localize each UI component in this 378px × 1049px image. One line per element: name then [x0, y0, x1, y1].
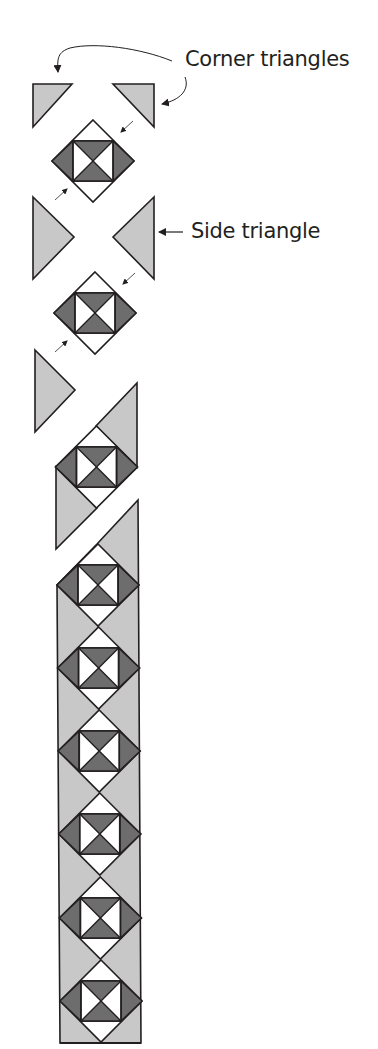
corner-label-arrow-right [162, 77, 186, 104]
step-1 [33, 84, 154, 202]
corner-triangles-label: Corner triangles [185, 47, 349, 71]
arrow-icon [121, 121, 133, 132]
quilt-diagram [0, 0, 378, 1049]
corner-label-arrow-left [58, 46, 172, 72]
arrow-icon [55, 341, 67, 352]
side-triangle-left-3 [35, 350, 75, 432]
side-triangle-left [33, 197, 74, 279]
completed-row [57, 500, 142, 1043]
corner-triangle-left [33, 84, 72, 127]
arrow-icon [55, 189, 67, 200]
corner-triangle-right [113, 84, 154, 127]
block-1 [52, 120, 134, 202]
side-triangle-right [113, 197, 154, 279]
step-2 [33, 197, 154, 354]
arrow-icon [123, 273, 135, 284]
side-triangle-label: Side triangle [191, 219, 320, 243]
